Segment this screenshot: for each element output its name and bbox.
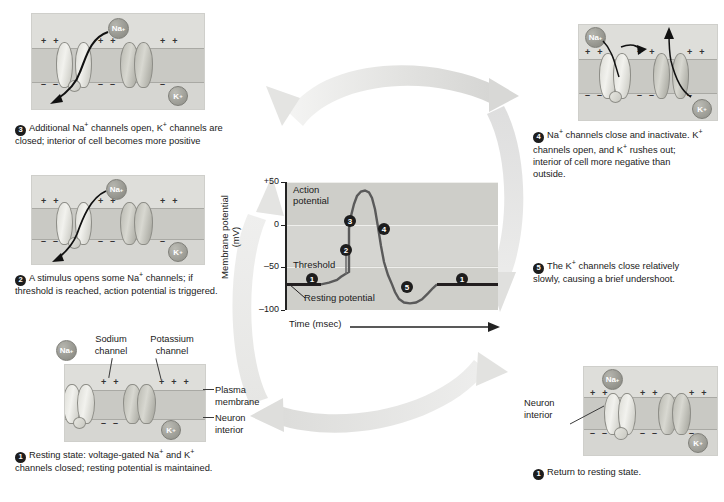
potassium-channel-closed (123, 384, 155, 422)
caption-step5: 5The K+ channels close relatively slowly… (533, 258, 703, 285)
step-number-4: 4 (533, 132, 544, 143)
graph-marker-1: 1 (306, 273, 318, 285)
label-plasma-membrane: Plasma membrane (215, 384, 275, 408)
caption-step4-text: Na+ channels close and inactivate. K+ ch… (533, 130, 702, 179)
annotation-threshold: Threshold (293, 259, 335, 270)
caption-step5-text: The K+ channels close relatively slowly,… (533, 261, 679, 284)
sodium-ion-label: Na+ (56, 340, 77, 361)
graph-marker-4: 4 (378, 223, 390, 235)
caption-step1-text: Resting state: voltage-gated Na+ and K+ … (15, 450, 212, 473)
x-axis-title: Time (msec) (289, 318, 341, 329)
label-sodium-channel: Sodium channel (84, 333, 138, 357)
sodium-ion: Na+ (602, 369, 623, 390)
caption-step3-text: Additional Na+ channels open, K+ channel… (15, 123, 223, 146)
sodium-channel-closed (64, 384, 95, 422)
leader-neuron-interior-right (570, 404, 618, 434)
na-influx-arrow (32, 176, 204, 264)
y-axis (285, 182, 287, 310)
charges-positive-mid: ++ (640, 389, 658, 398)
membrane-panel-step2: ++ ++ ++ –– –– – Na+ K+ (31, 175, 205, 265)
arrow-top (266, 65, 519, 126)
graph-marker-2: 2 (340, 244, 352, 256)
charges-positive-mid: ++ (101, 378, 119, 387)
caption-step1b-text: Return to resting state. (547, 467, 641, 477)
caption-step1b: 1Return to resting state. (533, 466, 713, 479)
membrane-panel-step3: ++ ++ ++ –– –– – Na+ K+ (31, 13, 205, 110)
caption-step2-text: A stimulus opens some Na+ channels; if t… (15, 273, 218, 296)
graph-marker-1b: 1 (456, 273, 468, 285)
step-number-3: 3 (15, 125, 26, 136)
leader-plasma-membrane (203, 389, 214, 390)
annotation-resting-potential: Resting potential (304, 292, 375, 303)
graph-marker-5: 5 (401, 281, 413, 293)
ytick-0: 0 (253, 219, 279, 229)
step-number-5: 5 (533, 263, 544, 274)
ytick-50: +50 (253, 176, 279, 186)
label-neuron-interior-right: Neuron interior (524, 398, 572, 421)
action-potential-graph: Membrane potential(mV) Actionpotential T… (253, 178, 498, 328)
caption-step3: 3Additional Na+ channels open, K+ channe… (15, 120, 230, 147)
potassium-channel-closed (658, 393, 690, 433)
membrane-panel-step4: ++ ++ ++ –– –– – Na+ K+ (578, 24, 718, 121)
step-number-1: 1 (15, 452, 26, 463)
charges-negative-mid: –– (640, 429, 657, 438)
charges-positive-right: ++ (689, 389, 707, 398)
ion-flux-arrows (579, 25, 717, 120)
potassium-ion: K+ (161, 420, 181, 440)
graph-marker-3: 3 (344, 215, 356, 227)
step-number-1b: 1 (533, 469, 544, 480)
annotation-action-potential: Actionpotential (293, 184, 329, 207)
membrane-panel-step1: ++ +++ –– – K+ (64, 364, 206, 442)
label-neuron-interior: Neuron interior (215, 412, 275, 436)
step-number-2: 2 (15, 275, 26, 286)
na-influx-arrow (32, 14, 204, 109)
plot-area: Actionpotential Threshold Resting potent… (285, 182, 498, 310)
x-axis-arrow (350, 320, 510, 334)
charges-positive-right: +++ (159, 378, 189, 387)
label-potassium-channel: Potassium channel (139, 333, 205, 357)
ytick-minus100: –100 (249, 304, 279, 314)
caption-step2: 2A stimulus opens some Na+ channels; if … (15, 270, 230, 297)
charges-negative-mid: –– (101, 419, 118, 428)
arrow-bottom (250, 352, 508, 433)
y-axis-title: Membrane potential(mV) (219, 182, 241, 292)
potassium-ion: K+ (688, 433, 708, 453)
leader-neuron-interior (203, 417, 214, 418)
caption-step4: 4Na+ channels close and inactivate. K+ c… (533, 127, 703, 181)
ytick-minus50: –50 (253, 261, 279, 271)
caption-step1: 1Resting state: voltage-gated Na+ and K+… (15, 447, 230, 474)
